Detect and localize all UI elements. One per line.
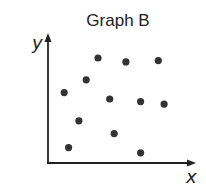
data-point [122, 58, 129, 65]
data-points [61, 54, 168, 156]
data-point [137, 98, 144, 105]
data-point [161, 101, 168, 108]
data-point [94, 54, 101, 61]
data-point [65, 144, 72, 151]
data-point [83, 76, 90, 83]
data-point [137, 149, 144, 156]
scatter-plot [0, 0, 206, 187]
x-axis-arrow-icon [187, 160, 196, 167]
data-point [75, 117, 82, 124]
y-axis-arrow-icon [45, 33, 52, 42]
data-point [61, 89, 68, 96]
data-point [106, 95, 113, 102]
data-point [111, 130, 118, 137]
data-point [155, 57, 162, 64]
